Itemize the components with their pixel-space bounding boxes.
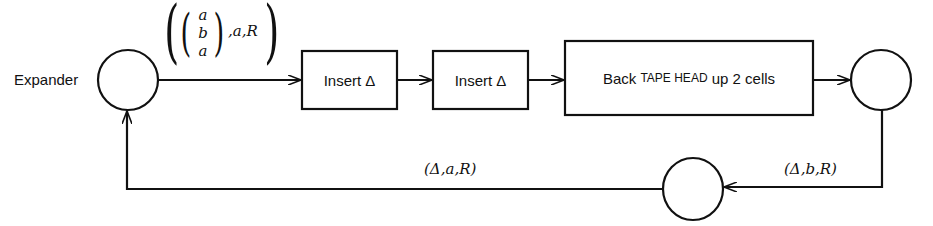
bottom-state-circle (663, 158, 723, 220)
outer-left-paren: ( (164, 0, 179, 66)
vector-entry: a (197, 6, 209, 24)
insert-delta-label-1: Insert Δ (302, 51, 397, 109)
top-edge-label-tail: ,a,R (228, 22, 258, 40)
back-tape-head-label-part: Back (603, 70, 641, 87)
back-tape-head-label-part: up 2 cells (708, 70, 776, 87)
vector-entry: b (197, 24, 209, 42)
back-tape-head-label-smallcaps: Tape Head (640, 71, 707, 85)
inner-right-paren: ) (213, 8, 224, 58)
inner-left-paren: ( (180, 8, 191, 58)
right-state-circle (851, 50, 911, 110)
edge-bottom-state-to-expander (127, 111, 663, 189)
expander-state-circle (98, 50, 158, 110)
insert-delta-label-2: Insert Δ (433, 51, 528, 109)
vector-entry: a (197, 42, 209, 60)
edge-label-delta-a-R: (Δ,a,R) (424, 160, 476, 178)
vector-column: a b a (197, 6, 209, 60)
back-tape-head-label: Back Tape Head up 2 cells (565, 41, 813, 115)
expander-label: Expander (14, 71, 78, 88)
outer-right-paren: ) (264, 0, 279, 66)
edge-label-delta-b-R: (Δ,b,R) (784, 160, 837, 178)
